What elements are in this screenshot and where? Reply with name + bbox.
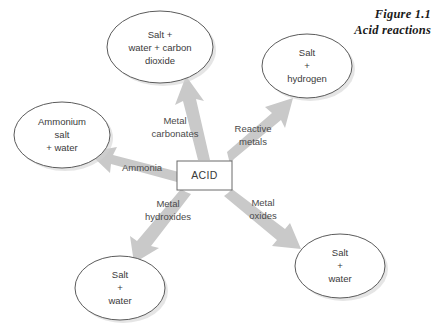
edge-label-line: Reactive	[235, 123, 272, 134]
node-salt-water-carbon-dioxide[interactable]: Salt + water + carbon dioxide	[107, 11, 213, 83]
node-salt-water-bottom-left[interactable]: Salt + water	[75, 256, 165, 320]
node-label-line: water + carbon	[127, 42, 191, 53]
edge-label-line: Ammonia	[122, 162, 163, 173]
figure-caption-title: Acid reactions	[354, 22, 431, 38]
edge-label-line: oxides	[249, 210, 277, 221]
node-label-line: Salt	[112, 269, 129, 280]
node-salt-hydrogen[interactable]: Salt + hydrogen	[262, 34, 352, 98]
node-label-line: hydrogen	[287, 73, 327, 84]
node-ammonium-salt-water[interactable]: Ammonium salt + water	[14, 102, 110, 168]
edge-label-line: carbonates	[151, 128, 198, 139]
node-label-line: dioxide	[145, 55, 175, 66]
node-label-line: Salt +	[148, 29, 173, 40]
node-salt-water-bottom-right[interactable]: Salt + water	[295, 234, 385, 298]
edge-label-line: Metal	[156, 198, 179, 209]
node-label-line: +	[304, 60, 310, 71]
edge-label-ammonia: Ammonia	[122, 162, 163, 173]
edge-label-line: Metal	[251, 197, 274, 208]
node-label-line: +	[337, 260, 343, 271]
node-label-line: Ammonium	[38, 116, 86, 127]
node-label-line: water	[107, 295, 131, 306]
node-label-line: +	[117, 282, 123, 293]
edge-label-line: Metal	[163, 115, 186, 126]
node-label-line: Salt	[299, 47, 316, 58]
figure-acid-reactions: Salt + water + carbon dioxide Salt + hyd…	[0, 0, 439, 331]
node-label-line: water	[327, 273, 351, 284]
edge-label-line: hydroxides	[145, 211, 191, 222]
node-label-line: salt	[55, 129, 70, 140]
node-acid-center[interactable]: ACID	[177, 161, 232, 190]
acid-reactions-diagram: Salt + water + carbon dioxide Salt + hyd…	[0, 0, 439, 331]
acid-label: ACID	[191, 169, 218, 181]
figure-caption: Figure 1.1 Acid reactions	[354, 6, 431, 38]
node-label-line: Salt	[332, 247, 349, 258]
edge-label-line: metals	[239, 136, 267, 147]
node-label-line: + water	[46, 142, 77, 153]
figure-caption-number: Figure 1.1	[354, 6, 431, 22]
